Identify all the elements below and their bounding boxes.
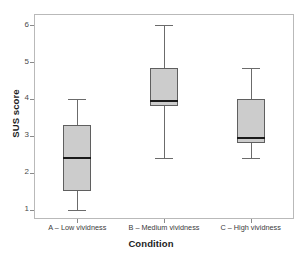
y-tick-label: 2 <box>13 168 29 176</box>
upper-whisker-cap <box>68 99 86 100</box>
y-tick-label: 1 <box>13 205 29 213</box>
lower-whisker-line <box>77 191 78 209</box>
upper-whisker-line <box>77 99 78 125</box>
y-tick-mark <box>30 25 34 26</box>
y-tick-label: 4 <box>13 94 29 102</box>
y-tick-label: 5 <box>13 58 29 66</box>
y-tick-label: 3 <box>13 131 29 139</box>
lower-whisker-cap <box>155 158 173 159</box>
upper-whisker-cap <box>155 25 173 26</box>
upper-whisker-line <box>164 25 165 67</box>
y-tick-mark <box>30 210 34 211</box>
y-tick-label: 6 <box>13 21 29 29</box>
median-line <box>237 137 265 139</box>
median-line <box>63 157 91 159</box>
upper-whisker-cap <box>242 68 260 69</box>
y-tick-mark <box>30 173 34 174</box>
upper-whisker-line <box>251 68 252 99</box>
y-tick-mark <box>30 136 34 137</box>
lower-whisker-cap <box>242 158 260 159</box>
x-axis-title: Condition <box>0 238 302 249</box>
y-tick-mark <box>30 62 34 63</box>
lower-whisker-cap <box>68 210 86 211</box>
x-tick-label: B – Medium vividness <box>121 224 208 231</box>
y-tick-mark <box>30 99 34 100</box>
lower-whisker-line <box>251 143 252 158</box>
median-line <box>150 100 178 102</box>
x-tick-label: C – High vividness <box>207 224 294 231</box>
y-axis-title: SUS score <box>10 69 21 159</box>
lower-whisker-line <box>164 106 165 158</box>
x-tick-label: A – Low vividness <box>34 224 121 231</box>
box-plot-figure: SUS score 123456 A – Low vividnessB – Me… <box>0 0 302 255</box>
